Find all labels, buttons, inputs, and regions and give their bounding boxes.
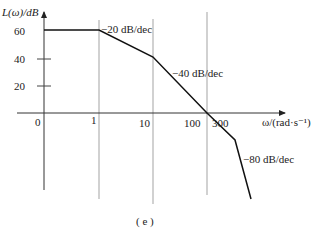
x-tick-100: 100 (184, 117, 201, 129)
y-tick-60: 60 (14, 25, 26, 37)
x-tick-300: 300 (212, 117, 229, 129)
y-axis-label: L(ω)/dB (1, 6, 39, 19)
slope-annotation-2: −40 dB/dec (172, 67, 223, 79)
magnitude-curve (44, 30, 251, 199)
y-tick-20: 20 (14, 80, 26, 92)
bode-plot: L(ω)/dB ω/(rad·s⁻¹) 60 40 20 0 1 10 100 … (0, 0, 327, 241)
x-tick-0: 0 (35, 116, 41, 128)
y-tick-40: 40 (14, 53, 26, 65)
slope-annotation-1: −20 dB/dec (101, 23, 152, 35)
x-tick-1: 1 (91, 114, 97, 126)
slope-annotation-3: −80 dB/dec (243, 153, 294, 165)
x-tick-10: 10 (139, 117, 151, 129)
figure-caption: ( e ) (136, 215, 154, 228)
grid-lines (99, 12, 207, 204)
x-axis-label: ω/(rad·s⁻¹) (262, 116, 311, 129)
bode-plot-figure: L(ω)/dB ω/(rad·s⁻¹) 60 40 20 0 1 10 100 … (0, 0, 327, 241)
